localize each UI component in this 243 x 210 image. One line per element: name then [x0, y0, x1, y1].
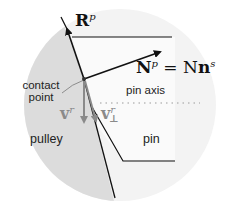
pin-label: pin: [143, 133, 160, 145]
R-label: Rp: [75, 10, 96, 30]
pin-axis-label: pin axis: [126, 84, 165, 96]
contact-point-dot: [82, 77, 86, 81]
vperp-label: vr⊥: [101, 104, 119, 124]
pulley-label: pulley: [30, 133, 63, 145]
contact-point-label: contact point: [18, 79, 64, 103]
vr-label: vr: [60, 104, 74, 123]
diagram-graphics: [0, 0, 243, 210]
pulley-pin-contact-diagram: Rp Np = Nns contact point pin axis vr vr…: [0, 0, 243, 210]
N-label: Np = Nns: [136, 57, 215, 77]
